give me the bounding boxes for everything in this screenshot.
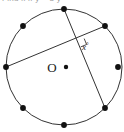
- degree-symbol: °: [86, 42, 89, 48]
- point-upper-left: [20, 23, 26, 29]
- point-top: [61, 6, 67, 12]
- center-label-o: O: [47, 60, 56, 75]
- geometry-figure: Find x if y = 3 y O x°: [0, 0, 124, 132]
- point-left: [3, 64, 9, 70]
- chord-top-to-lower-right: [64, 9, 105, 108]
- point-bottom: [61, 122, 67, 128]
- point-lower-right: [102, 105, 108, 111]
- point-upper-right: [102, 23, 108, 29]
- center-point-dot: [64, 65, 68, 69]
- angle-label-x: x°: [81, 42, 89, 52]
- circle-diagram-svg: O x°: [0, 0, 124, 132]
- point-lower-left: [20, 105, 26, 111]
- point-right: [115, 64, 121, 70]
